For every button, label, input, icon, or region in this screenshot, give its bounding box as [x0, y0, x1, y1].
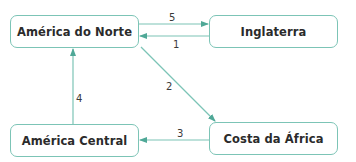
- arrow-2-norte-to-africa: [141, 47, 215, 121]
- node-label: América do Norte: [17, 25, 132, 39]
- edge-label-5: 5: [169, 13, 175, 23]
- node-america-central: América Central: [10, 124, 139, 157]
- node-label: Inglaterra: [241, 25, 307, 39]
- triangular-trade-diagram: América do Norte Inglaterra América Cent…: [0, 0, 356, 162]
- node-label: América Central: [22, 134, 128, 148]
- node-america-do-norte: América do Norte: [10, 15, 139, 48]
- node-label: Costa da África: [223, 132, 323, 146]
- node-inglaterra: Inglaterra: [209, 15, 338, 48]
- edge-label-2: 2: [166, 82, 172, 92]
- edge-label-4: 4: [76, 94, 82, 104]
- edge-label-3: 3: [177, 129, 183, 139]
- node-costa-da-africa: Costa da África: [209, 122, 338, 155]
- edge-label-1: 1: [173, 40, 179, 50]
